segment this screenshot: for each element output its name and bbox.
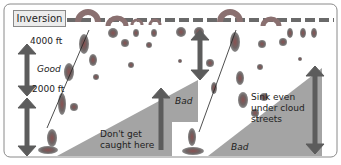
- warning-left: Don't get caught here: [100, 129, 154, 151]
- note-right-line2: under cloud: [251, 103, 305, 114]
- altitude-4000-label: 4000 ft: [30, 37, 62, 46]
- note-right-line3: streets: [251, 114, 305, 125]
- inversion-label: Inversion: [13, 10, 66, 27]
- note-right: Sink even under cloud streets: [251, 92, 305, 125]
- good-label: Good: [37, 65, 61, 74]
- bad-label-right: Bad: [231, 143, 248, 152]
- warning-left-line1: Don't get: [100, 129, 154, 140]
- bad-label-middle: Bad: [175, 97, 192, 106]
- inversion-label-text: Inversion: [17, 13, 63, 24]
- altitude-2000-label: 2000 ft: [32, 85, 64, 94]
- note-right-line1: Sink even: [251, 92, 305, 103]
- warning-left-line2: caught here: [100, 140, 154, 151]
